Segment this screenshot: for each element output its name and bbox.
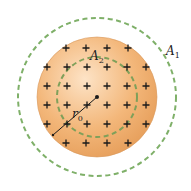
radius-end-dot (52, 134, 54, 136)
center-dot (95, 95, 99, 99)
label-a2: A2 (90, 50, 104, 65)
label-a1: A1 (166, 45, 180, 60)
diagram-canvas (0, 0, 191, 191)
label-r0: r0 (72, 108, 83, 123)
